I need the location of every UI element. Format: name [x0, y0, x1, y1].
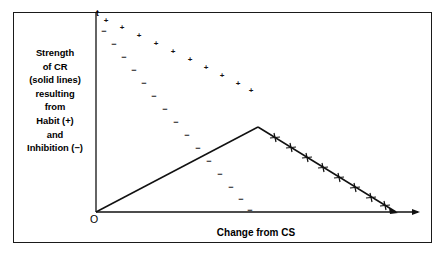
habit-plus-mark: +	[104, 17, 109, 25]
habit-plus-mark: +	[236, 80, 241, 88]
cr-end-arrowhead	[389, 208, 398, 214]
habit-plus-mark: +	[120, 24, 125, 32]
inhibition-minus-mark: −	[131, 66, 136, 74]
inhibition-minus-mark: −	[247, 206, 252, 214]
inhibition-minus-mark: −	[238, 195, 243, 203]
inhibition-minus-mark: −	[228, 183, 233, 191]
x-axis-label: Change from CS	[196, 226, 316, 239]
inhibition-minus-mark: −	[184, 131, 189, 139]
origin-label: O	[90, 213, 98, 225]
habit-plus-mark: +	[188, 56, 193, 64]
habit-plus-mark: +	[171, 48, 176, 56]
inhibition-minus-mark: −	[141, 79, 146, 87]
inhibition-minus-mark: −	[162, 105, 167, 113]
inhibition-minus-mark: −	[111, 40, 116, 48]
figure-root: Strength of CR (solid lines) resulting f…	[0, 0, 448, 256]
inhibition-minus-mark: −	[206, 157, 211, 165]
habit-plus-mark: +	[220, 72, 225, 80]
axes-group	[96, 12, 420, 215]
inhibition-minus-mark: −	[173, 118, 178, 126]
cr-solid-curve	[96, 127, 398, 214]
inhibition-minus-mark: −	[121, 53, 126, 61]
habit-plus-mark: +	[204, 64, 209, 72]
inhibition-minus-mark: −	[195, 144, 200, 152]
x-axis-arrowhead	[412, 209, 420, 215]
inhibition-minus-mark: −	[101, 27, 106, 35]
y-axis-label: t	[96, 8, 99, 18]
cr-descending-limb	[258, 127, 396, 212]
inhibition-minus-mark: −	[151, 92, 156, 100]
habit-plus-mark: +	[137, 32, 142, 40]
habit-plus-mark: +	[249, 87, 254, 95]
cr-ascending-limb	[96, 127, 258, 212]
inhibition-minus-mark: −	[217, 170, 222, 178]
plot-area	[0, 0, 448, 256]
habit-plus-mark: +	[154, 40, 159, 48]
